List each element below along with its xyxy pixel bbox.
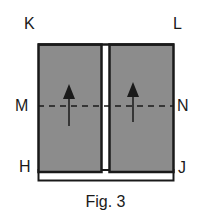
right-panel [110, 45, 174, 173]
figure-diagram [0, 0, 211, 224]
left-panel [39, 45, 102, 173]
figure-caption: Fig. 3 [0, 193, 211, 211]
